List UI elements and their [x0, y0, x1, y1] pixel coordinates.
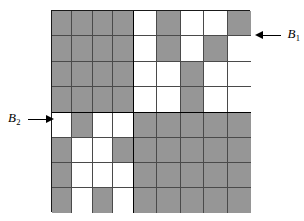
matrix-cell	[228, 36, 251, 61]
block-top-right	[134, 11, 251, 113]
matrix-cell	[93, 36, 113, 61]
matrix-cell	[72, 62, 92, 87]
matrix-cell	[204, 113, 227, 138]
matrix-cell	[181, 188, 204, 213]
matrix-cell	[72, 163, 92, 188]
matrix-cell	[93, 87, 113, 112]
matrix-cell	[134, 113, 157, 138]
label-b2-group: B2	[8, 112, 54, 126]
matrix-cell	[157, 113, 180, 138]
block-bottom-left	[52, 113, 134, 213]
matrix-cell	[204, 87, 227, 112]
matrix-cell	[52, 36, 72, 61]
matrix-cell	[52, 188, 72, 213]
matrix-cell	[52, 138, 72, 163]
matrix-cell	[228, 163, 251, 188]
label-b2-subscript: 2	[16, 117, 20, 127]
matrix-cell	[93, 62, 113, 87]
label-b1-subscript: 1	[296, 33, 300, 43]
matrix-cell	[113, 62, 133, 87]
matrix-cell	[93, 11, 113, 36]
matrix-cell	[72, 36, 92, 61]
matrix-cell	[52, 62, 72, 87]
matrix-cell	[72, 138, 92, 163]
matrix-cell	[181, 11, 204, 36]
matrix-cell	[134, 138, 157, 163]
matrix-cell	[228, 113, 251, 138]
matrix-cell	[93, 163, 113, 188]
label-b1-text: B	[288, 26, 296, 41]
matrix-cell	[72, 188, 92, 213]
matrix-cell	[72, 87, 92, 112]
matrix-cell	[157, 62, 180, 87]
matrix-cell	[181, 62, 204, 87]
matrix-cell	[52, 11, 72, 36]
matrix-cell	[204, 163, 227, 188]
matrix-cell	[181, 87, 204, 112]
matrix-cell	[134, 36, 157, 61]
block-matrix-grid	[51, 10, 250, 212]
matrix-cell	[181, 138, 204, 163]
matrix-cell	[157, 163, 180, 188]
matrix-cell	[204, 138, 227, 163]
arrow-right-icon	[28, 114, 54, 124]
matrix-cell	[204, 36, 227, 61]
matrix-cell	[113, 138, 133, 163]
block-matrix-figure: B1 B2	[0, 0, 304, 221]
matrix-cell	[93, 138, 113, 163]
matrix-cell	[113, 11, 133, 36]
matrix-cell	[157, 87, 180, 112]
matrix-cell	[72, 11, 92, 36]
matrix-cell	[228, 138, 251, 163]
matrix-cell	[113, 36, 133, 61]
matrix-cell	[181, 113, 204, 138]
matrix-cell	[228, 188, 251, 213]
matrix-cell	[113, 113, 133, 138]
matrix-cell	[204, 62, 227, 87]
matrix-cell	[134, 11, 157, 36]
matrix-cell	[93, 113, 113, 138]
label-b2: B2	[8, 111, 21, 126]
matrix-cell	[228, 62, 251, 87]
matrix-cell	[157, 11, 180, 36]
matrix-cell	[228, 87, 251, 112]
matrix-cell	[204, 188, 227, 213]
matrix-cell	[52, 163, 72, 188]
block-bottom-right	[134, 113, 251, 213]
matrix-cell	[134, 188, 157, 213]
matrix-cell	[157, 138, 180, 163]
matrix-cell	[157, 36, 180, 61]
matrix-cell	[228, 11, 251, 36]
matrix-cell	[113, 163, 133, 188]
matrix-cell	[52, 87, 72, 112]
matrix-cell	[134, 87, 157, 112]
matrix-cell	[204, 11, 227, 36]
matrix-cell	[113, 87, 133, 112]
matrix-cell	[113, 188, 133, 213]
block-top-left	[52, 11, 134, 113]
matrix-cell	[181, 163, 204, 188]
label-b1-group: B1	[255, 28, 301, 42]
matrix-cell	[157, 188, 180, 213]
matrix-cell	[52, 113, 72, 138]
label-b1: B1	[288, 27, 301, 42]
label-b2-text: B	[8, 110, 16, 125]
matrix-cell	[181, 36, 204, 61]
arrow-left-icon	[255, 30, 281, 40]
matrix-cell	[72, 113, 92, 138]
matrix-cell	[134, 62, 157, 87]
matrix-cell	[93, 188, 113, 213]
matrix-cell	[134, 163, 157, 188]
